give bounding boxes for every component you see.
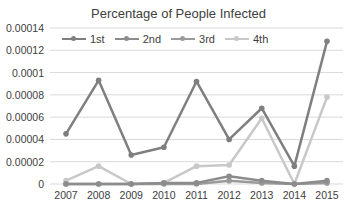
series-4th (63, 94, 330, 187)
data-point (292, 181, 298, 187)
data-point (324, 39, 330, 45)
data-point (194, 180, 200, 186)
data-point (226, 173, 232, 179)
data-point (292, 163, 298, 169)
data-point (128, 152, 134, 158)
data-point (96, 163, 102, 169)
data-point (63, 131, 69, 137)
data-point (96, 181, 102, 187)
data-point (324, 94, 330, 100)
series-1st (63, 39, 330, 169)
data-point (96, 78, 102, 84)
data-point (259, 115, 265, 121)
data-point (194, 79, 200, 85)
data-point (324, 178, 330, 184)
data-point (128, 181, 134, 187)
plot-area (0, 0, 357, 212)
data-point (161, 144, 167, 150)
data-point (259, 178, 265, 184)
data-point (226, 162, 232, 168)
data-point (259, 105, 265, 111)
data-point (226, 137, 232, 143)
data-point (194, 163, 200, 169)
data-point (63, 181, 69, 187)
data-point (161, 180, 167, 186)
